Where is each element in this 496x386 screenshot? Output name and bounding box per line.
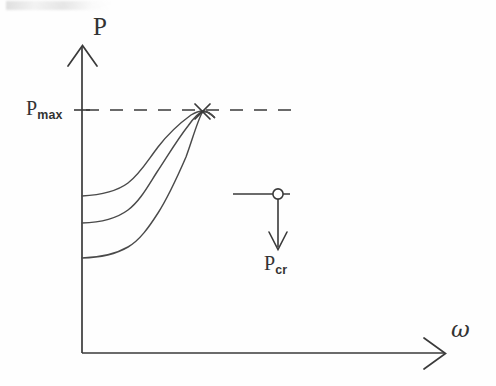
pmax-label: Pmax [26, 98, 63, 118]
critical-load-group [233, 189, 290, 250]
curve-upper [82, 111, 215, 196]
pmax-label-base: P [26, 97, 37, 119]
response-curve-plot [0, 0, 496, 386]
pcr-label: Pcr [264, 253, 287, 273]
axes-group [68, 46, 446, 370]
figure-canvas: P Pmax Pcr ω [0, 0, 496, 386]
y-axis-label: P [93, 14, 107, 39]
hinge-circle-icon [273, 189, 283, 199]
pcr-label-base: P [264, 252, 275, 274]
pcr-label-subscript: cr [275, 263, 287, 277]
x-axis-label: ω [451, 318, 470, 341]
response-curves-group [82, 111, 215, 258]
pmax-label-subscript: max [37, 108, 63, 122]
curve-middle [82, 111, 215, 223]
